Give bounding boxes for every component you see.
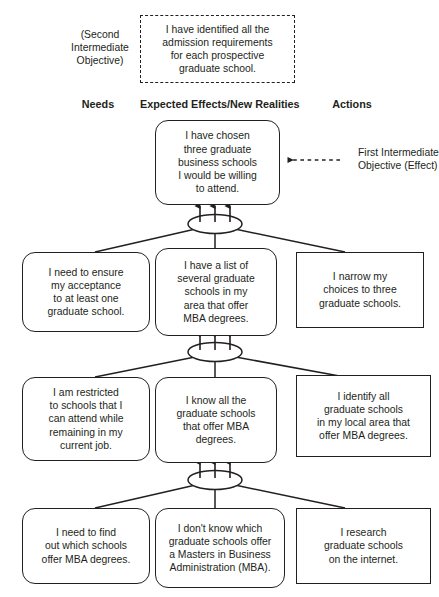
node-need-restricted-to-schools[interactable]: I am restricted to schools that I can at… xyxy=(22,377,150,461)
connector-ellipse-1 xyxy=(95,206,345,252)
node-need-ensure-acceptance[interactable]: I need to ensure my acceptance to at lea… xyxy=(22,252,150,332)
node-text: I am restricted to schools that I can at… xyxy=(48,386,123,452)
node-text: I don't know which graduate schools offe… xyxy=(169,522,272,575)
diagram-canvas: (Second Intermediate Objective) First In… xyxy=(0,0,439,597)
node-text: I narrow my choices to three graduate sc… xyxy=(319,270,401,310)
node-text: I have a list of several graduate school… xyxy=(177,259,254,325)
connector-ellipse-3 xyxy=(95,462,345,508)
node-text: I need to find out which schools offer M… xyxy=(42,526,131,566)
node-text: I need to ensure my acceptance to at lea… xyxy=(48,266,125,319)
column-header-actions: Actions xyxy=(296,98,408,110)
node-action-research-internet[interactable]: I research graduate schools on the inter… xyxy=(296,508,431,584)
node-second-intermediate-objective[interactable]: I have identified all the admission requ… xyxy=(140,15,295,83)
node-text: I have identified all the admission requ… xyxy=(162,23,272,76)
column-header-expected-effects: Expected Effects/New Realities xyxy=(140,98,290,110)
node-first-intermediate-objective[interactable]: I have chosen three graduate business sc… xyxy=(155,120,280,205)
node-action-identify-schools[interactable]: I identify all graduate schools in my lo… xyxy=(296,375,431,457)
second-intermediate-objective-label: (Second Intermediate Objective) xyxy=(56,28,144,68)
node-text: I have chosen three graduate business sc… xyxy=(178,129,257,195)
connector-ellipse-2 xyxy=(95,334,345,377)
node-action-narrow-choices[interactable]: I narrow my choices to three graduate sc… xyxy=(296,252,424,328)
node-text: I know all the graduate schools that off… xyxy=(176,394,255,447)
node-effect-know-all-schools[interactable]: I know all the graduate schools that off… xyxy=(155,377,277,463)
node-need-find-out-schools[interactable]: I need to find out which schools offer M… xyxy=(22,508,150,584)
node-text: I research graduate schools on the inter… xyxy=(324,526,403,566)
column-header-needs: Needs xyxy=(42,98,154,110)
node-effect-dont-know-schools[interactable]: I don't know which graduate schools offe… xyxy=(155,508,285,588)
first-intermediate-objective-label: First Intermediate Objective (Effect) xyxy=(358,146,439,172)
node-effect-list-of-schools[interactable]: I have a list of several graduate school… xyxy=(155,248,277,336)
node-text: I identify all graduate schools in my lo… xyxy=(317,390,410,443)
